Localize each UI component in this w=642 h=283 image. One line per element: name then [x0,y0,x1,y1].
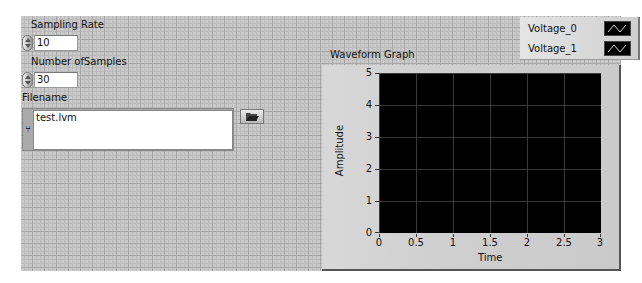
decrement-arrow-icon[interactable] [25,44,31,48]
number-of-samples-input[interactable]: 30 [34,72,78,88]
decrement-arrow-icon[interactable] [25,81,31,85]
number-of-samples-label: Number ofSamples [31,56,127,67]
number-of-samples-spinner[interactable] [22,72,33,88]
filename-input[interactable]: test.lvm [33,110,233,150]
y-tick-label: 3 [358,131,372,142]
waveform-graph-title: Waveform Graph [330,49,415,60]
sampling-rate-control: 10 [22,35,82,51]
legend-item-voltage-1[interactable]: Voltage_1 [520,40,640,58]
legend-label: Voltage_0 [528,23,577,34]
y-axis-label: Amplitude [334,125,345,176]
front-panel: Sampling Rate 10 Number ofSamples 30 Fil… [21,16,621,271]
x-tick-label: 2 [515,237,539,248]
number-of-samples-control: 30 [22,72,82,88]
y-tick-label: 5 [358,67,372,78]
increment-arrow-icon[interactable] [25,38,31,42]
filename-path-control: ⑂ test.lvm [22,108,234,151]
folder-open-icon [241,110,263,123]
legend-item-voltage-0[interactable]: Voltage_0 [520,20,640,38]
increment-arrow-icon[interactable] [25,75,31,79]
y-tick-label: 4 [358,99,372,110]
x-tick-label: 0.5 [404,237,428,248]
path-icon: ⑂ [25,123,31,134]
x-tick-label: 3 [588,237,612,248]
y-tick-label: 2 [358,163,372,174]
x-tick-label: 1 [441,237,465,248]
filename-label: Filename [22,92,67,103]
y-tick-label: 1 [358,195,372,206]
sampling-rate-label: Sampling Rate [31,19,104,30]
plot-area[interactable] [379,73,601,233]
legend-label: Voltage_1 [528,43,577,54]
waveform-line-icon[interactable] [604,21,631,36]
x-axis-label: Time [478,252,502,263]
waveform-line-icon[interactable] [604,41,631,56]
sampling-rate-input[interactable]: 10 [34,35,78,51]
waveform-graph: Amplitude 5 4 3 2 1 0 0 0.5 1 1.5 2 2.5 … [322,65,621,271]
x-tick-label: 2.5 [552,237,576,248]
x-tick-label: 0 [367,237,391,248]
x-tick-label: 1.5 [478,237,502,248]
sampling-rate-spinner[interactable] [22,35,33,51]
plot-legend[interactable]: Voltage_0 Voltage_1 [520,17,640,60]
browse-button[interactable] [240,109,264,124]
